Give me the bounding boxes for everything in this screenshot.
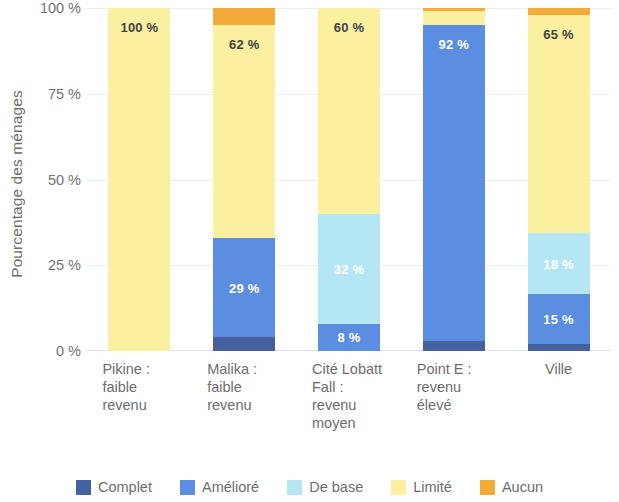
bar-segment-value-label: 62 %	[213, 37, 275, 52]
bar-segment[interactable]: 18 %	[528, 233, 590, 294]
legend-item-label: Amélioré	[202, 479, 259, 495]
legend-color-swatch	[480, 480, 495, 495]
bar-slot: 100 %	[87, 8, 192, 351]
legend-item-label: Complet	[98, 479, 152, 495]
x-axis-category-label: Point E :revenuélevé	[411, 360, 497, 460]
x-axis-label-slot: Point E :revenuélevé	[401, 360, 506, 460]
legend-color-swatch	[76, 480, 91, 495]
bar-segment-value-label: 32 %	[318, 261, 380, 276]
y-axis-tick-labels: 100 %75 %50 %25 %0 %	[34, 8, 87, 351]
x-axis-label-slot: Cité LobattFall :revenumoyen	[297, 360, 402, 460]
x-axis-category-label-line: revenu	[417, 378, 497, 396]
legend-item[interactable]: Amélioré	[180, 479, 259, 495]
x-axis-category-label-line: Point E :	[417, 360, 497, 378]
y-axis-tick-label: 0 %	[56, 343, 81, 359]
stacked-bar[interactable]: 29 %62 %	[213, 8, 275, 351]
x-axis-category-label-line: revenu	[207, 396, 287, 414]
bar-segment[interactable]: 62 %	[213, 25, 275, 238]
bar-segment-value-label: 100 %	[108, 20, 170, 35]
legend-item-label: Limité	[413, 479, 452, 495]
x-axis-category-label-line: Pikine :	[102, 360, 182, 378]
x-axis-category-label-line: Malika :	[207, 360, 287, 378]
bar-segment[interactable]	[423, 11, 485, 25]
y-axis-tick-label: 25 %	[48, 257, 81, 273]
legend-color-swatch	[391, 480, 406, 495]
x-axis-label-slot: Ville	[506, 360, 611, 460]
bars-layer: 100 %29 %62 %8 %32 %60 %92 %15 %18 %65 %	[87, 8, 611, 351]
legend-color-swatch	[180, 480, 195, 495]
legend-color-swatch	[287, 480, 302, 495]
bar-segment[interactable]: 92 %	[423, 25, 485, 341]
x-axis-category-label: Cité LobattFall :revenumoyen	[306, 360, 392, 460]
bar-segment-value-label: 15 %	[528, 312, 590, 327]
legend-item[interactable]: Aucun	[480, 479, 543, 495]
x-axis-label-slot: Malika :faiblerevenu	[192, 360, 297, 460]
legend-item[interactable]: De base	[287, 479, 363, 495]
x-axis-category-label-line: Cité Lobatt	[312, 360, 392, 378]
x-axis-category-label-line: faible	[207, 378, 287, 396]
y-axis-title: Pourcentage des ménages	[0, 0, 34, 368]
x-axis-category-label: Malika :faiblerevenu	[201, 360, 287, 460]
x-axis-category-label-line: moyen	[312, 414, 392, 432]
x-axis-category-labels: Pikine :faiblerevenuMalika :faiblerevenu…	[87, 360, 611, 460]
bar-segment-value-label: 60 %	[318, 20, 380, 35]
bar-segment-value-label: 8 %	[318, 330, 380, 345]
y-axis-tick-label: 100 %	[40, 0, 81, 16]
y-axis-title-text: Pourcentage des ménages	[8, 90, 26, 278]
legend-item[interactable]: Complet	[76, 479, 152, 495]
bar-segment-value-label: 18 %	[528, 256, 590, 271]
bar-segment[interactable]	[213, 337, 275, 351]
legend-item-label: De base	[309, 479, 363, 495]
x-axis-category-label-line: Ville	[516, 360, 602, 378]
x-axis-category-label: Ville	[516, 360, 602, 460]
x-axis-category-label: Pikine :faiblerevenu	[96, 360, 182, 460]
legend-item[interactable]: Limité	[391, 479, 452, 495]
stacked-bar[interactable]: 15 %18 %65 %	[528, 8, 590, 351]
chart-legend: CompletAmélioréDe baseLimitéAucun	[0, 472, 619, 502]
bar-segment-value-label: 65 %	[528, 27, 590, 42]
bar-slot: 8 %32 %60 %	[297, 8, 402, 351]
bar-segment[interactable]: 29 %	[213, 238, 275, 337]
bar-slot: 29 %62 %	[192, 8, 297, 351]
x-axis-category-label-line: faible	[102, 378, 182, 396]
bar-segment[interactable]: 65 %	[528, 15, 590, 234]
bar-segment[interactable]: 100 %	[108, 8, 170, 351]
x-axis-category-label-line: élevé	[417, 396, 497, 414]
bar-segment-value-label: 92 %	[423, 37, 485, 52]
bar-segment[interactable]	[213, 8, 275, 25]
stacked-bar[interactable]: 100 %	[108, 8, 170, 351]
bar-segment[interactable]	[423, 8, 485, 11]
x-axis-category-label-line: Fall :	[312, 378, 392, 396]
x-axis-label-slot: Pikine :faiblerevenu	[87, 360, 192, 460]
bar-slot: 15 %18 %65 %	[506, 8, 611, 351]
stacked-bar[interactable]: 92 %	[423, 8, 485, 351]
stacked-bar[interactable]: 8 %32 %60 %	[318, 8, 380, 351]
y-axis-tick-label: 50 %	[48, 172, 81, 188]
legend-item-label: Aucun	[502, 479, 543, 495]
bar-segment[interactable]	[423, 341, 485, 351]
bar-segment-value-label: 29 %	[213, 280, 275, 295]
y-axis-tick-label: 75 %	[48, 86, 81, 102]
bar-segment[interactable]: 8 %	[318, 324, 380, 351]
x-axis-category-label-line: revenu	[102, 396, 182, 414]
bar-slot: 92 %	[401, 8, 506, 351]
bar-segment[interactable]	[528, 8, 590, 15]
stacked-bar-chart: Pourcentage des ménages 100 %75 %50 %25 …	[0, 0, 619, 502]
bar-segment[interactable]	[528, 344, 590, 351]
bar-segment[interactable]: 32 %	[318, 214, 380, 324]
x-axis-category-label-line: revenu	[312, 396, 392, 414]
bar-segment[interactable]: 60 %	[318, 8, 380, 214]
plot-area: 100 %29 %62 %8 %32 %60 %92 %15 %18 %65 %	[87, 8, 611, 351]
bar-segment[interactable]: 15 %	[528, 294, 590, 344]
